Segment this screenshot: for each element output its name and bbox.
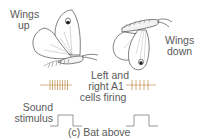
a1-line3: cells firing bbox=[77, 92, 129, 103]
caption: (c) Bat above bbox=[68, 127, 130, 138]
stimulus-pulse-left bbox=[50, 115, 82, 126]
a1-cells-label: Left and right A1 cells firing bbox=[77, 70, 129, 103]
moth-wings-down-icon bbox=[113, 19, 172, 70]
wings-up-line2: up bbox=[10, 20, 39, 31]
sound-line2: stimulus bbox=[5, 113, 53, 124]
stimulus-pulse-right bbox=[126, 115, 158, 126]
spike-train-right bbox=[126, 80, 156, 90]
wings-up-label: Wings up bbox=[10, 9, 39, 31]
wings-down-label: Wings down bbox=[165, 35, 194, 57]
moth-wings-up-icon bbox=[33, 10, 98, 68]
sound-stimulus-label: Sound stimulus bbox=[5, 102, 53, 124]
wings-down-line2: down bbox=[165, 46, 194, 57]
spike-train-left bbox=[40, 80, 72, 90]
